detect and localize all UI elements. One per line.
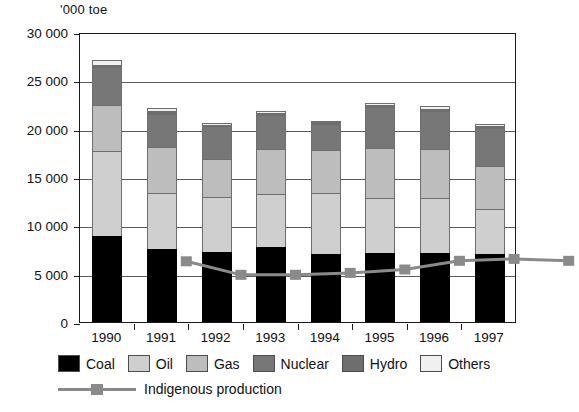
x-axis-tick-label: 1991 (146, 330, 176, 345)
y-axis-tick-label: 30 000 (2, 26, 68, 41)
legend-label: Coal (86, 356, 115, 372)
x-axis-tick-label: 1994 (310, 330, 340, 345)
legend-label: Hydro (370, 356, 407, 372)
legend-swatch-oil (128, 355, 150, 372)
x-axis-tick-label: 1993 (255, 330, 285, 345)
legend-label: Nuclear (281, 356, 329, 372)
legend-item-others: Others (420, 355, 490, 372)
x-axis-tick (134, 324, 135, 330)
x-axis-tick (188, 324, 189, 330)
x-axis-tick (243, 324, 244, 330)
legend-item-hydro: Hydro (342, 355, 407, 372)
legend-item-oil: Oil (128, 355, 173, 372)
legend-swatch-nuclear (253, 355, 275, 372)
x-axis-tick-label: 1995 (364, 330, 394, 345)
legend-label: Gas (214, 356, 240, 372)
legend-series-row: CoalOilGasNuclearHydroOthers (58, 355, 503, 372)
y-axis-tick-label: 15 000 (2, 171, 68, 186)
legend-line-row: Indigenous production (58, 381, 282, 397)
legend-item-nuclear: Nuclear (253, 355, 329, 372)
x-axis-tick-label: 1992 (201, 330, 231, 345)
y-axis-tick-label: 5 000 (2, 267, 68, 282)
y-axis-tick-label: 0 (2, 316, 68, 331)
x-axis-tick-label: 1996 (419, 330, 449, 345)
legend-swatch-gas (186, 355, 208, 372)
legend-swatch-coal (58, 355, 80, 372)
x-axis-tick (298, 324, 299, 330)
y-axis-tick-label: 10 000 (2, 219, 68, 234)
legend-label: Others (448, 356, 490, 372)
x-axis-tick (407, 324, 408, 330)
legend-line-label: Indigenous production (144, 381, 282, 397)
y-axis-tick-label: 25 000 (2, 74, 68, 89)
indigenous-production-line-icon (58, 382, 136, 396)
line-marker (563, 256, 574, 266)
x-axis-tick-label: 1990 (91, 330, 121, 345)
legend-swatch-others (420, 355, 442, 372)
y-axis-tick-label: 20 000 (2, 122, 68, 137)
legend: CoalOilGasNuclearHydroOthers Indigenous … (0, 355, 525, 410)
legend-label: Oil (156, 356, 173, 372)
legend-item-coal: Coal (58, 355, 115, 372)
legend-item-gas: Gas (186, 355, 240, 372)
legend-swatch-hydro (342, 355, 364, 372)
x-axis-tick-label: 1997 (474, 330, 504, 345)
x-axis-tick (461, 324, 462, 330)
x-axis-tick (352, 324, 353, 330)
